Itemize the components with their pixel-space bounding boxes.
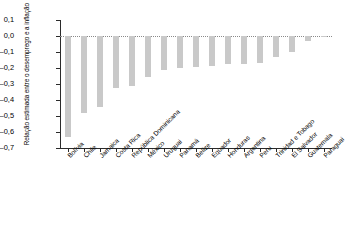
bar (305, 36, 311, 41)
y-axis-tick-mark (56, 52, 61, 53)
y-axis-tick-mark (56, 84, 61, 85)
bar (193, 36, 199, 67)
y-axis-tick-label: 0,0 (0, 31, 14, 40)
bar (113, 36, 119, 88)
y-axis-tick-label: –0,3 (0, 79, 14, 88)
y-axis-tick-label: –0,5 (0, 111, 14, 120)
y-axis-title: Relação estimada entre o desemprego e a … (23, 0, 31, 149)
bar (289, 36, 295, 52)
bar (225, 36, 231, 64)
bar (65, 36, 71, 137)
y-axis-tick-mark (56, 20, 61, 21)
y-axis-tick-mark (56, 116, 61, 117)
y-axis-tick-mark (56, 148, 61, 149)
y-axis-tick-label: –0,7 (0, 143, 14, 152)
y-axis-tick-label: –0,1 (0, 47, 14, 56)
bar (257, 36, 263, 63)
y-axis-tick-label: –0,4 (0, 95, 14, 104)
bar (209, 36, 215, 66)
bar (177, 36, 183, 68)
bar (321, 36, 327, 37)
y-axis-tick-mark (56, 68, 61, 69)
y-axis-tick-mark (56, 100, 61, 101)
y-axis-tick-mark (56, 132, 61, 133)
y-axis-tick-label: 0,1 (0, 15, 14, 24)
y-axis-tick-label: –0,6 (0, 127, 14, 136)
bar (81, 36, 87, 113)
y-axis-tick-label: –0,2 (0, 63, 14, 72)
chart-figure: Relação estimada entre o desemprego e a … (0, 0, 350, 236)
bar (97, 36, 103, 107)
bar (145, 36, 151, 77)
bar (273, 36, 279, 57)
bar (129, 36, 135, 86)
bar (161, 36, 167, 70)
bar (241, 36, 247, 64)
x-axis-category-label: Peru (258, 144, 273, 159)
